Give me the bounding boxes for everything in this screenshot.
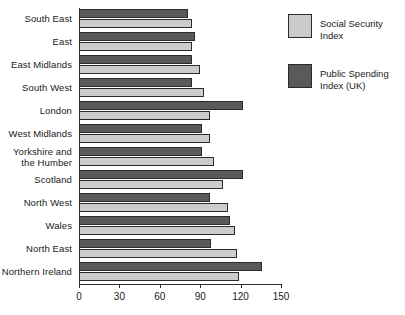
bar-social-security-index bbox=[79, 65, 200, 74]
chart-legend: Social Security IndexPublic Spending Ind… bbox=[288, 14, 405, 114]
category-label: Northern Ireland bbox=[0, 261, 76, 284]
category-label: Wales bbox=[0, 215, 76, 238]
bar-chart: South EastEastEast MidlandsSouth WestLon… bbox=[0, 0, 405, 315]
bar-social-security-index bbox=[79, 180, 223, 189]
bar-group bbox=[79, 54, 284, 77]
x-tick-label: 150 bbox=[273, 291, 290, 302]
bar-public-spending-index bbox=[79, 239, 211, 248]
bar-group bbox=[79, 169, 284, 192]
bar-public-spending-index bbox=[79, 32, 195, 41]
bar-group bbox=[79, 123, 284, 146]
category-label: South East bbox=[0, 8, 76, 31]
bar-group bbox=[79, 261, 284, 284]
legend-entry: Public Spending Index (UK) bbox=[288, 64, 405, 92]
category-label: East bbox=[0, 31, 76, 54]
legend-label: Social Security Index bbox=[320, 14, 405, 42]
bar-group bbox=[79, 100, 284, 123]
bar-group bbox=[79, 77, 284, 100]
x-tick-mark bbox=[119, 284, 120, 288]
category-label: Yorkshire and the Humber bbox=[0, 146, 76, 169]
x-tick-mark bbox=[200, 284, 201, 288]
x-tick-mark bbox=[241, 284, 242, 288]
x-axis-line bbox=[79, 284, 281, 285]
bar-group bbox=[79, 215, 284, 238]
category-label: South West bbox=[0, 77, 76, 100]
bar-group bbox=[79, 146, 284, 169]
category-label: North East bbox=[0, 238, 76, 261]
bar-social-security-index bbox=[79, 42, 192, 51]
legend-swatch bbox=[288, 14, 312, 38]
category-label: London bbox=[0, 100, 76, 123]
bar-group bbox=[79, 31, 284, 54]
x-tick-label: 0 bbox=[76, 291, 82, 302]
bar-public-spending-index bbox=[79, 78, 192, 87]
category-label: North West bbox=[0, 192, 76, 215]
bar-public-spending-index bbox=[79, 101, 243, 110]
x-tick-label: 60 bbox=[154, 291, 165, 302]
category-label: West Midlands bbox=[0, 123, 76, 146]
bar-social-security-index bbox=[79, 111, 210, 120]
bar-public-spending-index bbox=[79, 9, 188, 18]
bar-social-security-index bbox=[79, 19, 192, 28]
bar-public-spending-index bbox=[79, 124, 202, 133]
x-tick-label: 120 bbox=[232, 291, 249, 302]
category-axis: South EastEastEast MidlandsSouth WestLon… bbox=[0, 8, 76, 284]
category-label: Scotland bbox=[0, 169, 76, 192]
bar-social-security-index bbox=[79, 157, 214, 166]
bar-public-spending-index bbox=[79, 216, 230, 225]
bar-social-security-index bbox=[79, 203, 228, 212]
plot-area: 0306090120150 bbox=[79, 8, 284, 284]
legend-label: Public Spending Index (UK) bbox=[320, 64, 389, 92]
bar-group bbox=[79, 8, 284, 31]
x-tick-mark bbox=[79, 284, 80, 288]
x-tick-mark bbox=[160, 284, 161, 288]
bar-public-spending-index bbox=[79, 147, 202, 156]
bar-social-security-index bbox=[79, 272, 239, 281]
bar-group bbox=[79, 238, 284, 261]
x-tick-label: 30 bbox=[114, 291, 125, 302]
bar-group bbox=[79, 192, 284, 215]
x-tick-label: 90 bbox=[195, 291, 206, 302]
bar-social-security-index bbox=[79, 226, 235, 235]
bar-social-security-index bbox=[79, 88, 204, 97]
bar-social-security-index bbox=[79, 134, 210, 143]
legend-entry: Social Security Index bbox=[288, 14, 405, 42]
category-label: East Midlands bbox=[0, 54, 76, 77]
bar-public-spending-index bbox=[79, 170, 243, 179]
bar-public-spending-index bbox=[79, 55, 192, 64]
bar-public-spending-index bbox=[79, 193, 210, 202]
bar-social-security-index bbox=[79, 249, 237, 258]
legend-swatch bbox=[288, 64, 312, 88]
x-tick-mark bbox=[281, 284, 282, 288]
bars-container bbox=[79, 8, 284, 284]
bar-public-spending-index bbox=[79, 262, 262, 271]
